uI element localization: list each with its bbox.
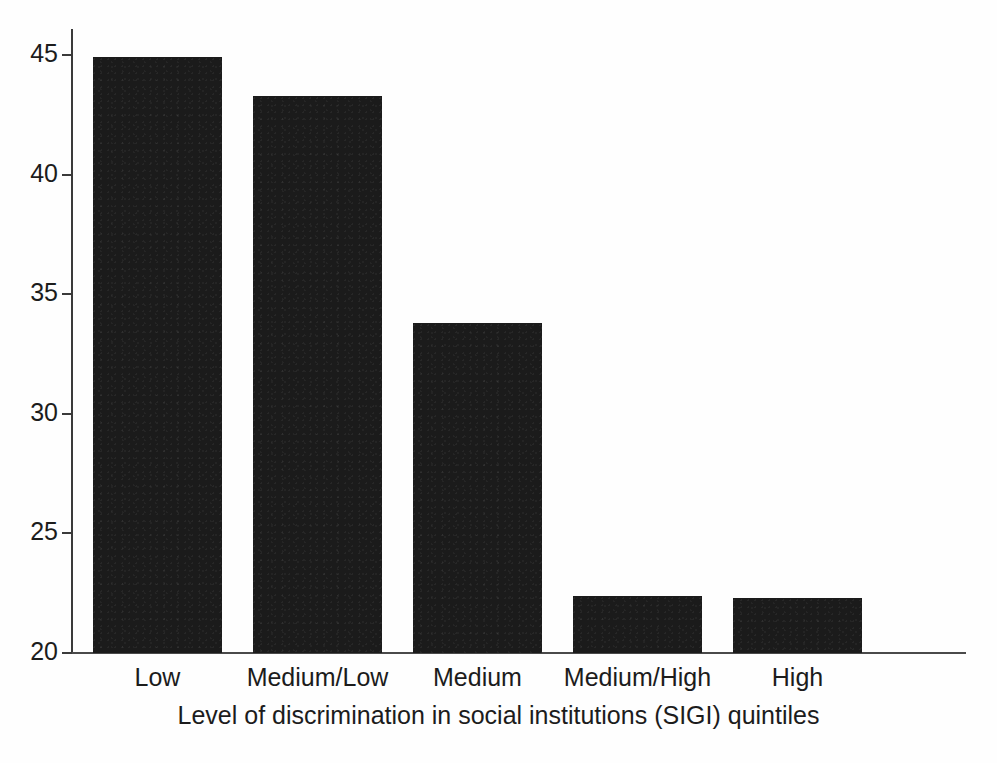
y-axis-tick-label-wrap: 40 [0, 161, 58, 186]
plot-area [71, 29, 965, 653]
bar-chart-figure: 202530354045 LowMedium/LowMediumMedium/H… [0, 0, 997, 763]
y-axis-tick-label: 35 [12, 280, 58, 305]
y-axis-tick-label-wrap: 45 [0, 41, 58, 66]
bar [573, 596, 702, 653]
x-axis-title: Level of discrimination in social instit… [0, 700, 997, 730]
y-axis-tick-label: 25 [12, 519, 58, 544]
y-axis-tick-label-wrap: 20 [0, 639, 58, 664]
y-axis-tick-label: 45 [12, 41, 58, 66]
bar [733, 598, 862, 653]
x-axis-tick-label: High [693, 662, 902, 692]
y-axis-tick-label-wrap: 30 [0, 400, 58, 425]
bar [413, 323, 542, 653]
bar [93, 57, 222, 653]
bar [253, 96, 382, 653]
y-axis-tick-label-wrap: 25 [0, 519, 58, 544]
y-axis-tick-label: 40 [12, 161, 58, 186]
y-axis-tick-label-wrap: 35 [0, 280, 58, 305]
y-axis-tick-label: 20 [12, 639, 58, 664]
y-axis-tick-label: 30 [12, 400, 58, 425]
